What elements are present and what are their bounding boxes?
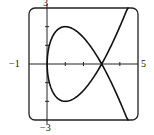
x-min-label: −1 <box>9 59 20 69</box>
parametric-plot <box>0 0 154 135</box>
y-max-label: 3 <box>43 0 48 8</box>
x-max-label: 5 <box>141 59 146 69</box>
y-min-label: −3 <box>40 123 51 133</box>
